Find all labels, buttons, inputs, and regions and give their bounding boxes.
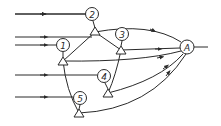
junction-triangle-4 xyxy=(103,89,113,97)
edge-t5-A xyxy=(79,54,186,113)
node-label-4: 4 xyxy=(101,72,107,82)
edge-t3-t4 xyxy=(108,50,121,93)
edge-t2-A xyxy=(95,29,181,42)
edge-t1-t5 xyxy=(63,61,79,113)
node-label-2: 2 xyxy=(89,10,95,20)
network-diagram: 2 1 3 4 5 A xyxy=(0,0,221,126)
node-label-1: 1 xyxy=(60,41,66,51)
node-label-3: 3 xyxy=(119,30,125,40)
node-label-5: 5 xyxy=(77,94,83,104)
edge-t3-A xyxy=(121,48,180,50)
node-label-A: A xyxy=(183,43,190,53)
